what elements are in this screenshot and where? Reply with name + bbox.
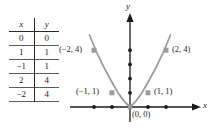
y-tick-dot-4 (128, 48, 132, 52)
y-axis-label: y (126, 2, 130, 11)
plot-marker-2-4 (164, 48, 169, 53)
x-tick-dot-2 (164, 105, 168, 109)
table-row: 1 1 (9, 46, 59, 60)
x-tick-dot-neg1 (110, 105, 114, 109)
x-axis-arrowhead (192, 103, 201, 110)
cell-y: 1 (34, 60, 59, 74)
cell-y: 1 (34, 46, 59, 60)
values-table: x y 0 0 1 1 −1 1 2 4 −2 4 (9, 18, 59, 102)
y-tick-dot-3 (128, 63, 132, 67)
figure-container: x y 0 0 1 1 −1 1 2 4 −2 4 (0, 0, 213, 128)
cell-y: 4 (34, 74, 59, 88)
cell-x: −1 (9, 60, 34, 74)
cell-x: 0 (9, 32, 34, 46)
point-label-neg2-4: (−2, 4) (59, 45, 82, 54)
table-row: 2 4 (9, 74, 59, 88)
y-tick-dot-2 (128, 77, 132, 81)
plot-marker-neg2-4 (92, 48, 97, 53)
column-header-y: y (34, 18, 59, 32)
y-axis-arrowhead (126, 13, 133, 22)
cell-x: −2 (9, 88, 34, 102)
table-body: 0 0 1 1 −1 1 2 4 −2 4 (9, 32, 59, 102)
plot-marker-1-1 (146, 90, 151, 95)
coordinate-graph: x y (−2, 4) (2, 4) (−1, 1) (1, 1) (0, 0) (62, 0, 213, 128)
cell-x: 1 (9, 46, 34, 60)
table-row: −1 1 (9, 60, 59, 74)
x-tick-dot-neg2 (92, 105, 96, 109)
cell-x: 2 (9, 74, 34, 88)
cell-y: 4 (34, 88, 59, 102)
point-label-1-1: (1, 1) (154, 87, 172, 96)
x-axis-label: x (203, 101, 207, 110)
y-tick-dot-1 (128, 91, 132, 95)
cell-y: 0 (34, 32, 59, 46)
table-header: x y (9, 18, 59, 32)
table-row: −2 4 (9, 88, 59, 102)
table-header-row: x y (9, 18, 59, 32)
point-label-neg1-1: (−1, 1) (76, 87, 99, 96)
table-row: 0 0 (9, 32, 59, 46)
point-label-0-0: (0, 0) (132, 110, 150, 119)
point-label-2-4: (2, 4) (172, 45, 190, 54)
column-header-x: x (9, 18, 34, 32)
plot-marker-neg1-1 (110, 90, 115, 95)
